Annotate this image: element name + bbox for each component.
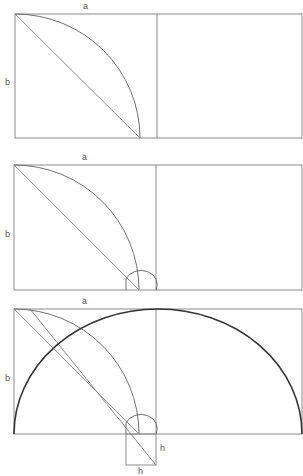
small-semicircle [126, 270, 157, 290]
parallel-diagonal [30, 309, 156, 465]
diagonal [14, 165, 139, 290]
outer-rectangle [14, 309, 302, 434]
panel-1 [15, 14, 302, 138]
outer-rectangle [15, 14, 302, 138]
diagonal [15, 14, 140, 138]
label-a-2: a [82, 152, 87, 162]
label-a-3: a [82, 296, 87, 306]
golden-rectangle-diagram [0, 0, 303, 476]
panel-2 [14, 165, 302, 290]
label-b-3: b [5, 373, 10, 383]
label-b-2: b [5, 229, 10, 239]
label-a-1: a [83, 1, 88, 11]
small-semicircle [126, 414, 157, 434]
label-b-1: b [5, 77, 10, 87]
panel-3 [14, 309, 302, 465]
large-semicircle [14, 309, 302, 434]
label-h-right: h [160, 443, 165, 453]
small-square-h [126, 434, 156, 465]
label-h-bottom: h [138, 466, 143, 476]
outer-rectangle [14, 165, 302, 290]
